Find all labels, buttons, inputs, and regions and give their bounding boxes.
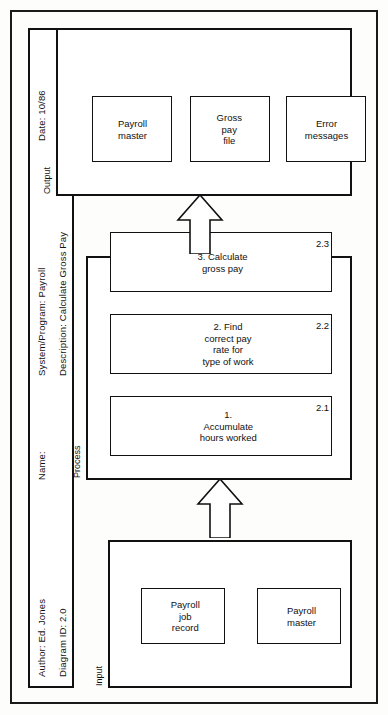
process-step-number: 2.2: [316, 320, 329, 331]
output-item-label: Error messages: [295, 117, 359, 140]
output-item-gross-pay-file: Gross pay file: [190, 96, 270, 162]
section-label-input: Input: [94, 665, 104, 685]
section-label-process: Process: [72, 445, 82, 478]
date-label: Date: 10/86: [36, 90, 47, 141]
process-panel: 1. Accumulate hours worked 2.1 2. Find c…: [86, 256, 352, 480]
process-step-accumulate-hours-worked: 1. Accumulate hours worked 2.1: [110, 396, 332, 456]
process-step-find-correct-pay-rate: 2. Find correct pay rate for type of wor…: [110, 314, 332, 374]
diagram-id-label: Diagram ID: 2.0: [57, 608, 68, 677]
output-item-label: Gross pay file: [197, 111, 261, 146]
name-label: Name:: [36, 451, 47, 480]
arrow-input-to-process: [196, 478, 248, 538]
ipo-diagram-page: Author: Ed. Jones Name: System/Program: …: [0, 0, 388, 715]
process-step-number: 2.3: [316, 238, 329, 249]
process-step-number: 2.1: [316, 402, 329, 413]
diagram-canvas: Author: Ed. Jones Name: System/Program: …: [28, 28, 360, 688]
title-block-row-1: Author: Ed. Jones Name: System/Program: …: [31, 30, 52, 686]
input-panel: Payroll job record Payroll master: [108, 540, 352, 688]
input-item-label: Payroll master: [275, 604, 329, 627]
section-label-output: Output: [42, 166, 52, 193]
output-item-label: Payroll master: [101, 117, 165, 140]
arrow-process-to-output: [176, 194, 228, 254]
output-panel: Payroll master Gross pay file Error mess…: [56, 28, 352, 196]
author-label: Author: Ed. Jones: [36, 598, 47, 676]
system-program-label: System/Program: Payroll: [36, 267, 47, 376]
process-step-label: 1. Accumulate hours worked: [199, 408, 257, 443]
input-item-label: Payroll job record: [158, 598, 212, 633]
output-item-payroll-master: Payroll master: [92, 96, 172, 162]
input-item-payroll-job-record: Payroll job record: [141, 588, 225, 644]
description-label: Description: Calculate Gross Pay: [57, 231, 68, 375]
input-item-payroll-master: Payroll master: [257, 588, 341, 644]
output-item-error-messages: Error messages: [286, 96, 366, 162]
process-step-label: 2. Find correct pay rate for type of wor…: [199, 321, 257, 367]
